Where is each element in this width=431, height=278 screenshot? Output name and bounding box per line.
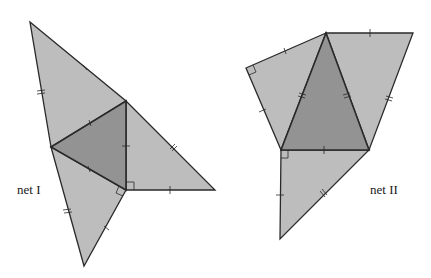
tetrahedron-nets-diagram: net I net II [0,0,431,278]
net-one-label: net I [17,182,40,197]
net-two: net II [246,29,413,239]
net-one-right-face [126,101,215,190]
net-one: net I [17,22,215,266]
net-two-label: net II [370,182,398,197]
net-two-bottom-face [280,150,369,239]
